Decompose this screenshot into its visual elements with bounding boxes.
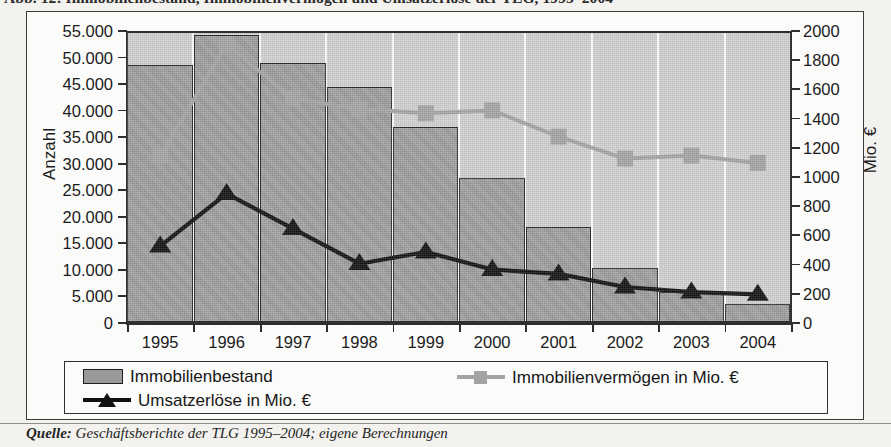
x-tick bbox=[127, 323, 129, 332]
legend-item[interactable]: Umsatzerlöse in Mio. € bbox=[83, 391, 311, 409]
legend-swatch-bar bbox=[83, 369, 123, 384]
y-tick-label-right: 1400 bbox=[803, 111, 840, 128]
y-tick-right bbox=[791, 118, 800, 120]
y-tick-right bbox=[791, 176, 800, 178]
x-tick bbox=[525, 323, 527, 332]
marker-square bbox=[351, 101, 367, 117]
marker-square bbox=[219, 37, 235, 53]
marker-square bbox=[418, 105, 434, 121]
x-tick-label: 2004 bbox=[723, 334, 793, 351]
y-tick-left bbox=[118, 216, 127, 218]
y-tick-left bbox=[118, 269, 127, 271]
x-tick-label: 2003 bbox=[656, 334, 726, 351]
y-tick-right bbox=[791, 59, 800, 61]
y-tick-right bbox=[791, 293, 800, 295]
x-tick bbox=[725, 323, 727, 332]
x-tick-label: 1997 bbox=[258, 334, 328, 351]
x-tick-label: 1995 bbox=[125, 334, 195, 351]
y-tick-label-right: 1800 bbox=[803, 52, 840, 69]
y-tick-label-right: 200 bbox=[803, 286, 831, 303]
marker-triangle bbox=[415, 242, 437, 259]
legend-swatch-line bbox=[457, 368, 505, 386]
y-tick-label-right: 1000 bbox=[803, 169, 840, 186]
marker-square bbox=[484, 102, 500, 118]
y-tick-right bbox=[791, 88, 800, 90]
y-tick-label-left: 35.000 bbox=[27, 129, 113, 146]
y-tick-right bbox=[791, 205, 800, 207]
x-tick bbox=[592, 323, 594, 332]
source-line: Quelle: Geschäftsberichte der TLG 1995–2… bbox=[26, 425, 886, 442]
legend-item[interactable]: Immobilienbestand bbox=[83, 368, 273, 385]
y-tick-label-left: 15.000 bbox=[27, 235, 113, 252]
y-tick-label-right: 400 bbox=[803, 257, 831, 274]
y-tick-label-right: 2000 bbox=[803, 23, 840, 40]
line-path bbox=[160, 45, 758, 163]
y-tick-label-right: 600 bbox=[803, 227, 831, 244]
line-series bbox=[152, 37, 766, 171]
y-tick-left bbox=[118, 295, 127, 297]
x-tick-label: 1996 bbox=[192, 334, 262, 351]
x-tick bbox=[326, 323, 328, 332]
marker-square bbox=[285, 91, 301, 107]
legend-marker-square bbox=[474, 371, 487, 384]
y-tick-label-left: 30.000 bbox=[27, 156, 113, 173]
figure-frame: Anzahl Mio. € 05.00010.00015.00020.00025… bbox=[26, 11, 864, 420]
y-axis-right-line bbox=[790, 31, 792, 325]
y-tick-label-left: 0 bbox=[27, 315, 113, 332]
source-label: Quelle: bbox=[26, 425, 72, 441]
legend-label: Umsatzerlöse in Mio. € bbox=[138, 392, 311, 409]
marker-triangle bbox=[216, 183, 238, 200]
y-axis-left-line bbox=[126, 31, 128, 325]
y-tick-left bbox=[118, 83, 127, 85]
legend-label: Immobilienbestand bbox=[130, 368, 273, 385]
y-tick-left bbox=[118, 30, 127, 32]
y-tick-label-right: 1600 bbox=[803, 81, 840, 98]
figure-caption: Abb. 12: Immobilienbestand, Immobilienve… bbox=[4, 0, 613, 7]
y-tick-right bbox=[791, 30, 800, 32]
legend-label: Immobilienvermögen in Mio. € bbox=[512, 369, 739, 386]
x-tick bbox=[260, 323, 262, 332]
y-tick-label-left: 5.000 bbox=[27, 288, 113, 305]
y-tick-label-right: 800 bbox=[803, 198, 831, 215]
figure-caption-clip: Abb. 12: Immobilienbestand, Immobilienve… bbox=[0, 0, 891, 11]
line-path bbox=[160, 194, 758, 295]
x-tick bbox=[791, 323, 793, 332]
y-tick-label-right: 0 bbox=[803, 315, 812, 332]
y-tick-label-left: 55.000 bbox=[27, 23, 113, 40]
y-tick-label-left: 40.000 bbox=[27, 103, 113, 120]
y-tick-left bbox=[118, 163, 127, 165]
y-tick-left bbox=[118, 57, 127, 59]
y-tick-label-right: 1200 bbox=[803, 140, 840, 157]
y-tick-right bbox=[791, 234, 800, 236]
y-tick-right bbox=[791, 147, 800, 149]
chart-legend: ImmobilienbestandImmobilienvermögen in M… bbox=[64, 361, 828, 414]
x-tick bbox=[658, 323, 660, 332]
marker-square bbox=[551, 129, 567, 145]
y-axis-right-title: Mio. € bbox=[861, 105, 881, 195]
y-tick-left bbox=[118, 136, 127, 138]
marker-square bbox=[617, 151, 633, 167]
y-tick-left bbox=[118, 189, 127, 191]
y-tick-left bbox=[118, 242, 127, 244]
line-series-layer bbox=[127, 33, 791, 323]
legend-marker-triangle bbox=[98, 393, 116, 407]
plot-area bbox=[127, 31, 791, 323]
x-tick bbox=[393, 323, 395, 332]
legend-swatch-line bbox=[83, 391, 131, 409]
y-tick-label-left: 20.000 bbox=[27, 209, 113, 226]
x-tick bbox=[459, 323, 461, 332]
y-tick-label-left: 25.000 bbox=[27, 182, 113, 199]
x-tick-label: 1998 bbox=[324, 334, 394, 351]
legend-item[interactable]: Immobilienvermögen in Mio. € bbox=[457, 368, 739, 386]
line-series bbox=[149, 183, 769, 301]
x-tick-label: 2001 bbox=[524, 334, 594, 351]
x-tick-label: 2000 bbox=[457, 334, 527, 351]
source-text: Geschäftsberichte der TLG 1995–2004; eig… bbox=[72, 425, 448, 441]
y-tick-left bbox=[118, 110, 127, 112]
x-tick bbox=[193, 323, 195, 332]
y-tick-label-left: 10.000 bbox=[27, 262, 113, 279]
x-tick-label: 2002 bbox=[590, 334, 660, 351]
marker-square bbox=[683, 148, 699, 164]
y-tick-label-left: 50.000 bbox=[27, 50, 113, 67]
y-tick-label-left: 45.000 bbox=[27, 76, 113, 93]
